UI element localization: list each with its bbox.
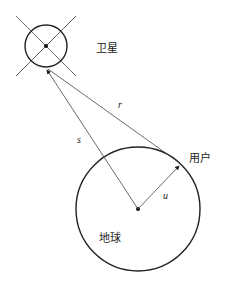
satellite-icon: [16, 16, 76, 76]
user-label: 用户: [189, 153, 211, 164]
vector-u: [138, 166, 179, 209]
vector-s: [47, 70, 138, 209]
vector-s-label: s: [77, 135, 81, 145]
satellite-label: 卫星: [96, 43, 118, 54]
vector-u-label: u: [163, 191, 168, 201]
satellite-geometry-diagram: 卫星 用户 地球 r s u: [0, 0, 227, 285]
vector-r-label: r: [118, 100, 122, 110]
vector-r: [48, 69, 181, 164]
earth-label: 地球: [99, 233, 121, 244]
